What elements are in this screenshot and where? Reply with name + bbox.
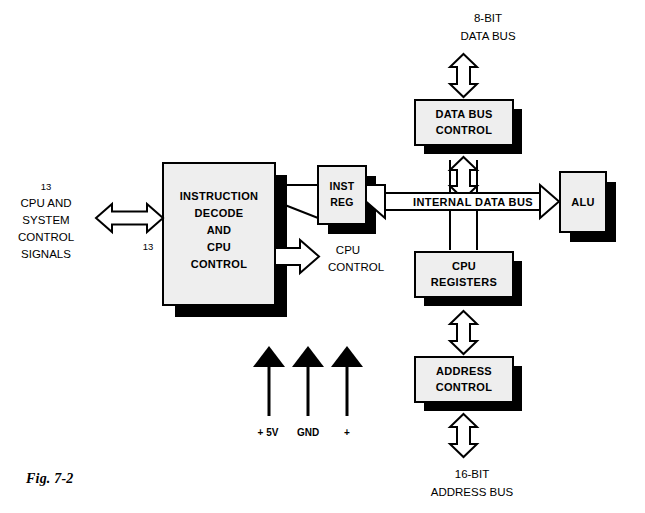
address-bus-bottom-arrow [450,414,477,457]
power-input-supply-plus: + [331,346,363,438]
block-address-control[interactable]: ADDRESS CONTROL [415,357,522,411]
decode-label-line3: AND [207,224,232,236]
control-signals-line2: SYSTEM [22,214,69,226]
figure-page: 8-BIT DATA BUS DATA BUS CONTROL INTERNAL… [0,0,645,513]
decode-label-line2: DECODE [195,207,244,219]
decode-label-line1: INSTRUCTION [180,190,258,202]
address-control-label-line2: CONTROL [436,381,492,393]
address-bus-label-line1: 16-BIT [455,468,490,480]
control-signals-line3: CONTROL [18,231,75,243]
cpu-registers-label-line1: CPU [452,260,476,272]
address-control-label-line1: ADDRESS [436,365,492,377]
internal-data-bus: INTERNAL DATA BUS [385,160,559,250]
data-bus-top-arrow [450,54,477,97]
cpu-system-control-signals-arrow [96,204,163,232]
cpu-block-diagram: 8-BIT DATA BUS DATA BUS CONTROL INTERNAL… [0,0,645,513]
alu-label: ALU [571,196,595,208]
power-label-gnd: GND [297,427,319,438]
cpu-registers-to-address-control-arrow [450,311,477,354]
cpu-control-output-line1: CPU [336,244,360,256]
block-instruction-decode[interactable]: INSTRUCTION DECODE AND CPU CONTROL [163,163,287,317]
control-signals-line4: SIGNALS [21,248,71,260]
power-input-ground: GND [292,346,324,438]
block-alu[interactable]: ALU [560,172,616,242]
internal-data-bus-label: INTERNAL DATA BUS [413,196,533,208]
control-signals-count-top: 13 [41,181,52,192]
control-signals-line1: CPU AND [20,197,71,209]
block-cpu-registers[interactable]: CPU REGISTERS [415,252,522,306]
figure-caption: Fig. 7-2 [26,471,74,487]
control-signals-count-bottom: 13 [143,241,154,252]
data-bus-top-label-line2: DATA BUS [460,30,515,42]
cpu-control-output-line2: CONTROL [328,261,385,273]
block-data-bus-control[interactable]: DATA BUS CONTROL [415,100,522,154]
data-bus-control-label-line2: CONTROL [436,124,492,136]
data-bus-control-label-line1: DATA BUS [435,108,492,120]
inst-reg-label-line2: REG [330,196,354,208]
decode-label-line4: CPU [207,241,231,253]
power-input-supply-5v: + 5V [253,346,285,438]
cpu-registers-label-line2: REGISTERS [431,276,497,288]
power-label-plus: + [344,427,350,438]
address-bus-label-line2: ADDRESS BUS [431,486,514,498]
decode-label-line5: CONTROL [191,258,247,270]
inst-reg-label-line1: INST [329,180,354,192]
data-bus-top-label-line1: 8-BIT [474,12,502,24]
power-label-5v: + 5V [258,427,279,438]
